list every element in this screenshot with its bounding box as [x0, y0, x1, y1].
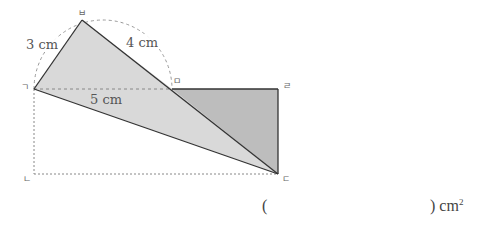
vertex-label-r: ㄹ: [283, 81, 291, 91]
answer-blank[interactable]: [275, 197, 425, 219]
vertex-label-b: ㅂ: [78, 8, 86, 18]
unit-label: ) cm2: [430, 197, 463, 215]
label-3cm: 3 cm: [26, 37, 58, 52]
label-5cm: 5 cm: [90, 92, 122, 107]
vertex-label-m: ㅁ: [173, 76, 181, 86]
close-paren: ): [430, 197, 435, 214]
vertex-label-g: ㄱ: [21, 82, 29, 92]
unit-text: cm: [439, 197, 459, 214]
unit-exponent: 2: [459, 197, 464, 207]
open-paren: (: [262, 197, 267, 215]
vertex-label-d: ㄷ: [282, 174, 290, 184]
answer-row: ( ) cm2: [0, 197, 484, 223]
vertex-label-n: ㄴ: [23, 174, 31, 184]
triangle-gbm: [34, 20, 172, 89]
label-4cm: 4 cm: [126, 35, 158, 50]
